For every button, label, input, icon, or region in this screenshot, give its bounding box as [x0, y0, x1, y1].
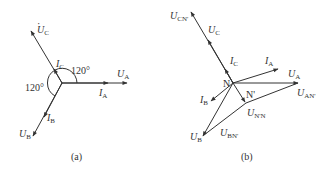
phasor-ic-a [54, 69, 62, 83]
label-ia-b: IA [264, 55, 273, 68]
label-ia-a: IA [98, 87, 107, 100]
phasor-ub-b [203, 83, 233, 136]
label-ua-b: UA [288, 68, 300, 81]
diagram-b: UCN' UC IC IA N UA UAN' IB N' UN'N UB UB… [170, 10, 316, 163]
label-uan-b: UAN' [297, 87, 316, 100]
label-uc-b: UC [208, 24, 220, 37]
angle-label-2: 120° [25, 82, 44, 93]
label-ua-a: UA [117, 68, 129, 81]
caption-b: (b) [241, 151, 253, 163]
diagram-a: UC · IC 120° 120° UA IA IB UB (a) [19, 18, 129, 163]
label-ub-b: UB [190, 131, 202, 144]
label-unn-b: UN'N [247, 107, 266, 120]
phasor-ia-b [233, 69, 278, 83]
phasor-diagrams: UC · IC 120° 120° UA IA IB UB (a) UCN' [0, 0, 331, 174]
label-ucn-b: UCN' [170, 10, 188, 23]
phasor-unn-b [233, 83, 245, 102]
angle-label-1: 120° [71, 65, 90, 76]
label-ic-b: IC [229, 55, 238, 68]
caption-a: (a) [71, 151, 82, 163]
label-ub-a: UB [19, 128, 31, 141]
node-n: N [223, 78, 230, 89]
angle-arc-cb [47, 70, 55, 96]
label-ib-b: IB [199, 94, 208, 107]
label-ubn-b: UBN' [220, 127, 238, 140]
dot-uc-a: · [37, 18, 40, 29]
node-nprime: N' [246, 89, 255, 100]
label-ib-a: IB [46, 112, 55, 125]
